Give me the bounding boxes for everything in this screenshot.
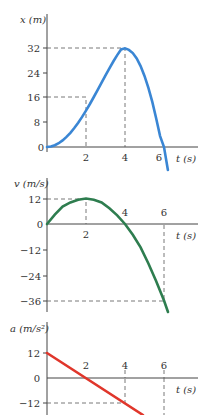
velocity-x-axis-label: t (s) xyxy=(176,230,196,241)
tick-label: 2 xyxy=(83,152,89,163)
acceleration-chart: a (m/s²) 12 0 −12 2 4 6 t (s) xyxy=(10,322,198,415)
tick-label: 12 xyxy=(28,194,41,205)
tick-label: 6 xyxy=(161,360,167,371)
tick-label: 0 xyxy=(34,373,40,384)
tick-label: −36 xyxy=(20,296,41,307)
acceleration-line xyxy=(47,353,143,415)
tick-label: −24 xyxy=(20,271,41,282)
tick-label: 6 xyxy=(156,152,162,163)
tick-label: 8 xyxy=(34,117,40,128)
acceleration-x-axis-label: t (s) xyxy=(176,384,196,395)
tick-label: −12 xyxy=(19,398,40,409)
tick-label: 16 xyxy=(27,92,40,103)
tick-label: 0 xyxy=(38,142,44,153)
guide-t6-v-36 xyxy=(47,224,164,301)
velocity-y-axis-label: v (m/s) xyxy=(14,178,49,189)
position-curve xyxy=(47,48,168,170)
kinematics-figure: x (m) 32 24 16 8 0 2 4 6 t (s) v (m/s) 1… xyxy=(0,0,207,415)
tick-label: 0 xyxy=(37,219,43,230)
tick-label: 6 xyxy=(161,207,167,218)
tick-label: 4 xyxy=(122,360,128,371)
tick-label: 12 xyxy=(27,348,40,359)
position-chart: x (m) 32 24 16 8 0 2 4 6 t (s) xyxy=(20,14,198,170)
velocity-chart: v (m/s) 12 0 −12 −24 −36 2 4 6 t (s) xyxy=(14,178,198,312)
tick-label: 4 xyxy=(122,207,128,218)
tick-label: 2 xyxy=(83,229,89,240)
acceleration-y-axis-label: a (m/s²) xyxy=(10,323,49,334)
guide-t2-v12 xyxy=(47,199,86,224)
velocity-curve xyxy=(47,199,168,313)
tick-label: 24 xyxy=(27,68,40,79)
tick-label: 32 xyxy=(27,43,40,54)
tick-label: 4 xyxy=(122,152,128,163)
position-x-axis-label: t (s) xyxy=(176,153,196,164)
position-y-axis-label: x (m) xyxy=(20,14,46,25)
guide-t4-a-12 xyxy=(47,378,125,403)
tick-label: 2 xyxy=(83,360,89,371)
tick-label: −12 xyxy=(20,245,41,256)
